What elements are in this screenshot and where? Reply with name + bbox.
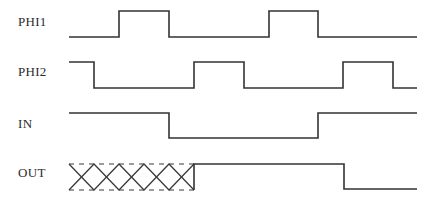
timing-diagram: PHI1 PHI2 IN OUT [0, 0, 438, 204]
waveform-out [194, 164, 417, 190]
waveform-phi1 [69, 11, 417, 37]
waveform-in [69, 113, 417, 138]
out-undefined-region [69, 164, 194, 190]
waveform-canvas [0, 0, 438, 204]
waveform-phi2 [69, 62, 417, 88]
